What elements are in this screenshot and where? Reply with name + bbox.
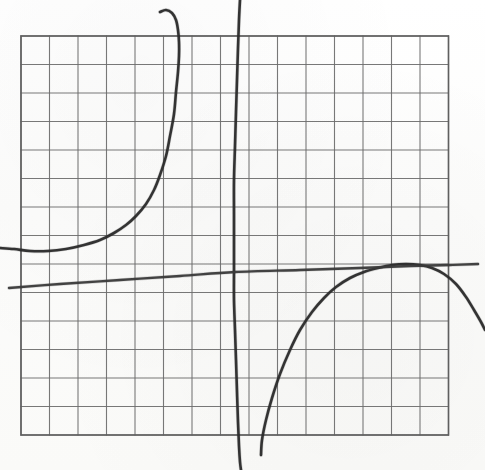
curve-halo-slanted-near-horizontal-line [9, 264, 478, 288]
curve-left-branch [0, 10, 179, 251]
hand-drawn-plot [0, 0, 485, 470]
curve-halo-left-branch [0, 10, 179, 251]
graph-paper-figure [0, 0, 485, 470]
